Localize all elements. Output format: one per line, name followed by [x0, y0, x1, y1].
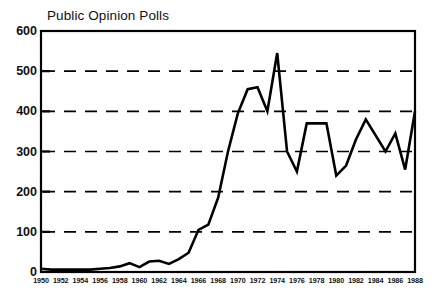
x-tick-label: 1982 — [348, 276, 364, 285]
x-tick-label: 1960 — [132, 276, 148, 285]
x-tick-label: 1980 — [328, 276, 344, 285]
plot-area — [0, 0, 434, 296]
x-tick-label: 1962 — [151, 276, 167, 285]
x-tick-label: 1976 — [289, 276, 305, 285]
x-axis: 1950195219541956195819601962196419661968… — [41, 276, 415, 290]
x-tick-label: 1958 — [112, 276, 128, 285]
x-tick-label: 1964 — [171, 276, 187, 285]
x-tick-label: 1954 — [73, 276, 89, 285]
x-tick-label: 1956 — [92, 276, 108, 285]
data-line-public-opinion-polls — [41, 53, 415, 270]
x-tick-label: 1972 — [250, 276, 266, 285]
x-tick-label: 1968 — [210, 276, 226, 285]
x-tick-label: 1974 — [269, 276, 285, 285]
x-tick-label: 1966 — [191, 276, 207, 285]
x-tick-label: 1970 — [230, 276, 246, 285]
x-tick-label: 1984 — [368, 276, 384, 285]
x-tick-label: 1988 — [407, 276, 423, 285]
x-tick-label: 1986 — [388, 276, 404, 285]
y-tickmarks — [41, 71, 50, 232]
chart-figure: Public Opinion Polls 0100200300400500600… — [0, 0, 434, 296]
x-tick-label: 1978 — [309, 276, 325, 285]
x-tick-label: 1950 — [33, 276, 49, 285]
x-tick-label: 1952 — [53, 276, 69, 285]
